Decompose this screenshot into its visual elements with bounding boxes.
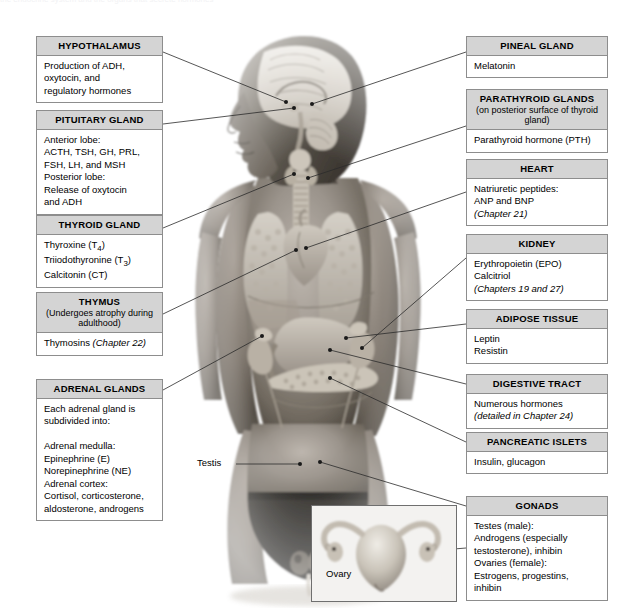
callout-thyroid-gland-body: Thyroxine (T4) Triiodothyronine (T3) Cal… [37,235,162,287]
callout-heart-chapter-ref: (Chapter 21) [474,208,527,219]
callout-kidney-body-text: Erythropoietin (EPO) Calcitriol [474,258,562,282]
callout-adipose-tissue: ADIPOSE TISSUE Leptin Resistin [466,309,608,364]
callout-adrenal-glands-title: ADRENAL GLANDS [37,380,162,399]
callout-thymus-title-main: THYMUS [79,296,120,307]
callout-pineal-gland-title: PINEAL GLAND [467,37,607,56]
ovary-label: Ovary [326,568,351,579]
callout-pituitary-gland: PITUITARY GLAND Anterior lobe: ACTH, TSH… [36,110,163,215]
callout-adrenal-glands-body: Each adrenal gland is subdivided into: A… [37,399,162,521]
callout-digestive-tract-body-text: Numerous hormones [474,398,563,409]
callout-parathyroid-glands-body: Parathyroid hormone (PTH) [467,130,607,152]
callout-gonads-body: Testes (male): Androgens (especially tes… [467,516,607,600]
callout-thymus-title-subtitle: (Undergoes atrophy during adulthood) [39,308,160,330]
callout-gonads-title: GONADS [467,497,607,516]
callout-kidney: KIDNEY Erythropoietin (EPO) Calcitriol (… [466,234,608,301]
callout-adipose-tissue-body: Leptin Resistin [467,329,607,363]
callout-pineal-gland: PINEAL GLAND Melatonin [466,36,608,78]
callout-thymus: THYMUS (Undergoes atrophy during adultho… [36,292,163,356]
callout-digestive-tract-body: Numerous hormones (detailed in Chapter 2… [467,394,607,428]
callout-adrenal-glands: ADRENAL GLANDS Each adrenal gland is sub… [36,379,163,521]
callout-thymus-title: THYMUS (Undergoes atrophy during adultho… [37,293,162,333]
callout-heart-title: HEART [467,160,607,179]
callout-parathyroid-glands: PARATHYROID GLANDS (on posterior surface… [466,89,608,153]
callout-pineal-gland-body: Melatonin [467,56,607,78]
callout-thymus-body-text: Thymosins [44,337,93,348]
callout-pituitary-gland-title: PITUITARY GLAND [37,111,162,130]
callout-pancreatic-islets-title: PANCREATIC ISLETS [467,433,607,452]
callout-heart-body: Natriuretic peptides: ANP and BNP (Chapt… [467,179,607,226]
callout-adipose-tissue-title: ADIPOSE TISSUE [467,310,607,329]
callout-hypothalamus-title: HYPOTHALAMUS [37,37,162,56]
callout-parathyroid-glands-title-main: PARATHYROID GLANDS [480,93,595,104]
callout-pancreatic-islets-body: Insulin, glucagon [467,452,607,474]
callout-heart-body-text: Natriuretic peptides: ANP and BNP [474,183,558,207]
callout-digestive-tract: DIGESTIVE TRACT Numerous hormones (detai… [466,374,608,429]
callout-digestive-tract-title: DIGESTIVE TRACT [467,375,607,394]
callout-thymus-body: Thymosins (Chapter 22) [37,333,162,355]
clipped-top-caption: the endocrine system and the organs that… [0,0,628,6]
callout-kidney-chapter-ref: (Chapters 19 and 27) [474,283,564,294]
callout-thyroid-gland-title: THYROID GLAND [37,216,162,235]
callout-digestive-tract-chapter-ref: (detailed in Chapter 24) [474,410,573,421]
callout-pituitary-gland-body: Anterior lobe: ACTH, TSH, GH, PRL, FSH, … [37,130,162,214]
endocrine-system-figure: the endocrine system and the organs that… [0,0,628,612]
callout-pancreatic-islets: PANCREATIC ISLETS Insulin, glucagon [466,432,608,474]
callout-kidney-title: KIDNEY [467,235,607,254]
callout-thymus-chapter-ref: (Chapter 22) [93,337,146,348]
callout-parathyroid-glands-title: PARATHYROID GLANDS (on posterior surface… [467,90,607,130]
callout-parathyroid-glands-title-subtitle: (on posterior surface of thyroid gland) [469,105,605,127]
testis-label: Testis [197,457,221,468]
callout-hypothalamus-body: Production of ADH, oxytocin, and regulat… [37,56,162,103]
callout-heart: HEART Natriuretic peptides: ANP and BNP … [466,159,608,226]
callout-gonads: GONADS Testes (male): Androgens (especia… [466,496,608,601]
callout-hypothalamus: HYPOTHALAMUS Production of ADH, oxytocin… [36,36,163,103]
callout-kidney-body: Erythropoietin (EPO) Calcitriol (Chapter… [467,254,607,301]
callout-thyroid-gland: THYROID GLAND Thyroxine (T4) Triiodothyr… [36,215,163,288]
